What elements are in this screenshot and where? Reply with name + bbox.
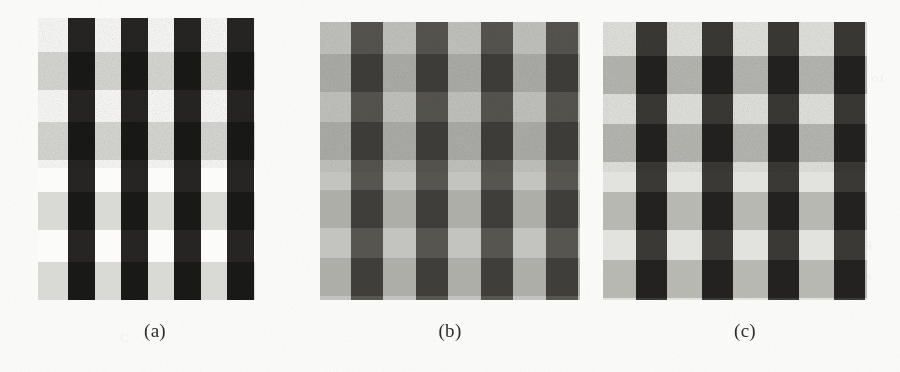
bleed-through-mark: of bbox=[872, 70, 885, 86]
figure-panel-c bbox=[603, 22, 867, 300]
bleed-through-mark: C bbox=[120, 330, 130, 346]
figure-panel-a bbox=[38, 18, 255, 300]
figure-panel-b bbox=[320, 22, 580, 300]
scanned-figure: of the imagecontrastCnginagesofw (a) bbox=[0, 0, 900, 372]
panel-c-pattern bbox=[603, 22, 867, 300]
panel-a-caption: (a) bbox=[144, 320, 166, 342]
panel-b-pattern bbox=[320, 22, 580, 300]
panel-c-caption: (c) bbox=[734, 320, 756, 342]
panel-b-caption: (b) bbox=[438, 320, 461, 342]
panel-a-pattern bbox=[38, 18, 255, 300]
